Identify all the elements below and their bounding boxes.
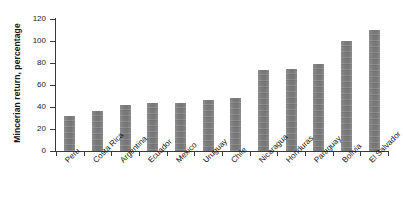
bar bbox=[175, 103, 186, 151]
bar bbox=[258, 70, 269, 151]
x-tick-mark bbox=[167, 152, 168, 156]
x-tick-mark bbox=[194, 152, 195, 156]
bar bbox=[230, 98, 241, 151]
y-tick-label: 60 bbox=[6, 81, 46, 89]
x-tick-mark bbox=[360, 152, 361, 156]
bar bbox=[64, 116, 75, 151]
plot-area bbox=[56, 19, 388, 151]
x-tick-mark bbox=[388, 152, 389, 156]
bar bbox=[120, 105, 131, 151]
bar bbox=[147, 103, 158, 151]
x-tick-mark bbox=[305, 152, 306, 156]
bar bbox=[369, 30, 380, 151]
bar bbox=[92, 111, 103, 151]
x-tick-mark bbox=[222, 152, 223, 156]
bar bbox=[313, 64, 324, 151]
x-tick-mark bbox=[250, 152, 251, 156]
y-tick-label: 20 bbox=[6, 125, 46, 133]
x-tick-mark bbox=[84, 152, 85, 156]
x-tick-mark bbox=[56, 152, 57, 156]
x-tick-mark bbox=[139, 152, 140, 156]
x-tick-mark bbox=[111, 152, 112, 156]
y-tick-label: 0 bbox=[6, 147, 46, 155]
y-tick-label: 80 bbox=[6, 59, 46, 67]
x-tick-mark bbox=[277, 152, 278, 156]
bar bbox=[203, 100, 214, 151]
y-tick-label: 120 bbox=[6, 15, 46, 23]
x-tick-mark bbox=[333, 152, 334, 156]
bar-chart: Mincerian return, percentage 02040608010… bbox=[0, 0, 403, 209]
y-tick-label: 100 bbox=[6, 37, 46, 45]
bar bbox=[341, 41, 352, 151]
y-tick-label: 40 bbox=[6, 103, 46, 111]
